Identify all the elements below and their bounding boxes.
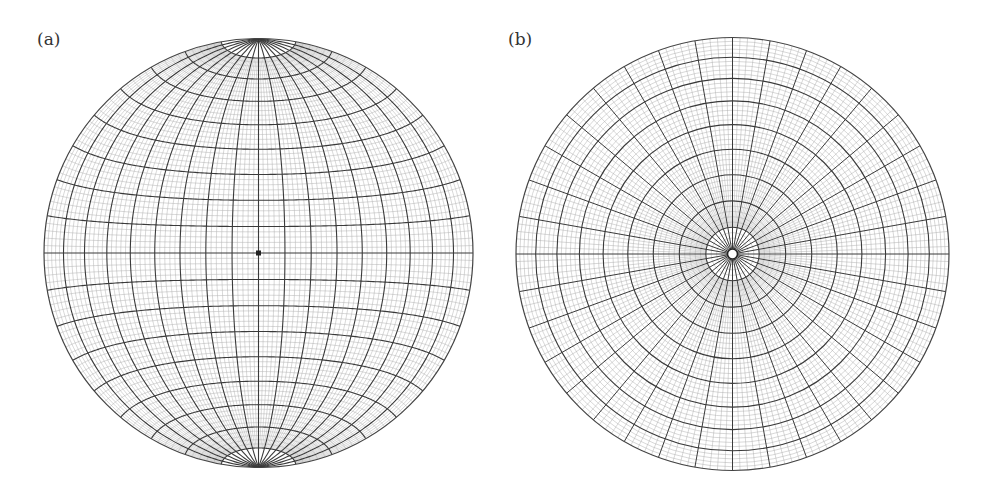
azimuth-line-minor	[756, 159, 927, 242]
center-ring-icon	[728, 249, 738, 259]
azimuth-line-minor	[759, 256, 948, 269]
azimuth-line-minor	[725, 38, 732, 228]
azimuth-line-minor	[734, 281, 747, 470]
azimuth-line-minor	[759, 224, 947, 250]
azimuth-line-minor	[717, 281, 730, 470]
stereonet-figure	[0, 0, 982, 504]
azimuth-line-minor	[733, 281, 740, 471]
azimuth-line-minor	[759, 246, 949, 253]
azimuth-line-minor	[702, 40, 728, 228]
azimuth-line-minor	[725, 281, 732, 471]
azimuth-line-minor	[736, 40, 762, 228]
azimuth-line-minor	[759, 258, 947, 284]
azimuth-line-minor	[744, 59, 827, 230]
azimuth-line-minor	[638, 59, 721, 230]
azimuth-line-minor	[759, 255, 949, 262]
azimuth-line-minor	[759, 239, 948, 252]
azimuth-line-minor	[518, 258, 706, 284]
azimuth-line-minor	[717, 38, 730, 227]
azimuth-line-minor	[517, 256, 706, 269]
azimuth-line-minor	[734, 38, 747, 227]
azimuth-line-minor	[736, 280, 762, 468]
equatorial-schmidt-net	[44, 39, 473, 468]
azimuth-line-minor	[538, 266, 709, 349]
azimuth-line-minor	[516, 246, 706, 253]
azimuth-line-minor	[517, 239, 706, 252]
azimuth-line-minor	[538, 159, 709, 242]
polar-schmidt-net	[516, 38, 949, 471]
center-point-icon	[256, 251, 261, 256]
azimuth-line-minor	[516, 255, 706, 262]
azimuth-line-minor	[638, 278, 721, 449]
azimuth-line-minor	[518, 224, 706, 250]
azimuth-line-minor	[756, 266, 927, 349]
azimuth-line-minor	[702, 280, 728, 468]
azimuth-line-minor	[744, 278, 827, 449]
azimuth-line-minor	[733, 38, 740, 228]
